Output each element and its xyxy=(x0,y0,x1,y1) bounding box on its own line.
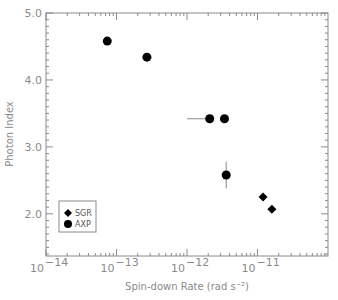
x-tick-exponent: −11 xyxy=(257,256,280,269)
y-tick-label: 5.0 xyxy=(25,7,43,20)
axp-point xyxy=(103,37,112,46)
axp-point xyxy=(222,171,231,180)
circle-marker-icon xyxy=(64,220,72,228)
x-tick-label: 10 xyxy=(30,262,44,275)
axp-point xyxy=(142,53,151,62)
error-bars xyxy=(187,119,226,189)
scatter-chart: 2.03.04.05.0 10−1410−1310−1210−11 Photon… xyxy=(0,0,338,300)
legend-item-sgr: SGR xyxy=(64,209,92,218)
x-axis-ticks: 10−1410−1310−1210−11 xyxy=(30,13,325,275)
legend: SGR AXP xyxy=(59,201,96,232)
x-tick-label: 10 xyxy=(101,262,115,275)
x-axis-title: Spin-down Rate (rad s⁻²) xyxy=(125,281,249,292)
x-tick-exponent: −12 xyxy=(186,256,209,269)
axp-point xyxy=(220,114,229,123)
sgr-point xyxy=(259,193,268,202)
y-tick-label: 2.0 xyxy=(25,208,43,221)
sgr-point xyxy=(267,205,276,214)
data-points xyxy=(103,37,277,214)
x-tick-label: 10 xyxy=(171,262,185,275)
axp-point xyxy=(205,114,214,123)
y-axis-title: Photon Index xyxy=(4,101,15,167)
y-tick-label: 3.0 xyxy=(25,141,43,154)
x-tick-exponent: −13 xyxy=(116,256,139,269)
legend-item-axp: AXP xyxy=(64,220,91,229)
y-tick-label: 4.0 xyxy=(25,74,43,87)
legend-label-axp: AXP xyxy=(75,220,91,229)
x-tick-label: 10 xyxy=(242,262,256,275)
x-tick-exponent: −14 xyxy=(45,256,68,269)
legend-label-sgr: SGR xyxy=(75,209,92,218)
